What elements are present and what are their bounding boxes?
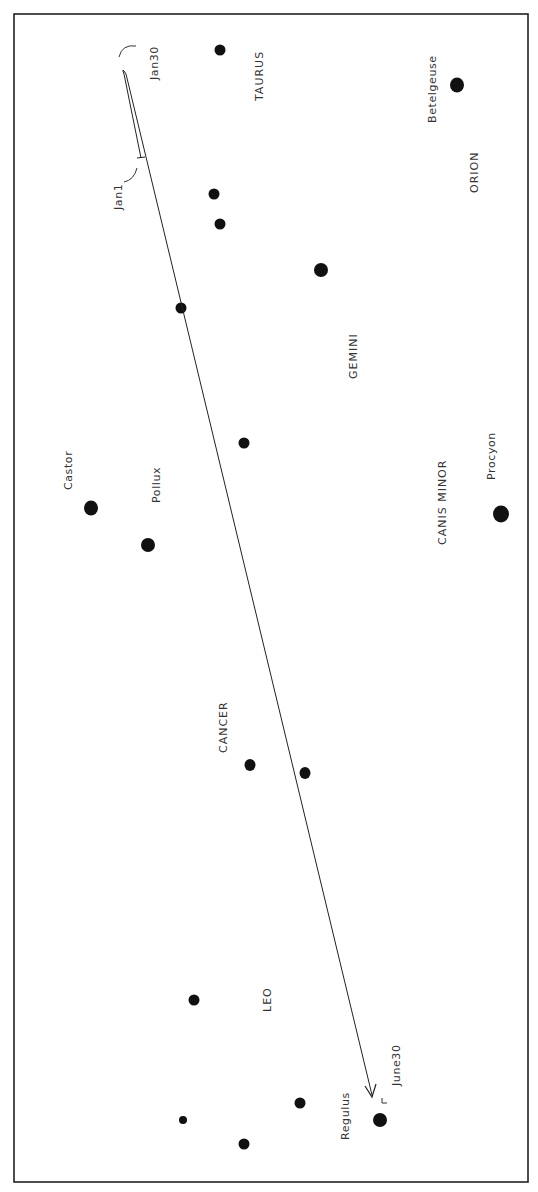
star-leo-4 <box>239 1139 250 1150</box>
path-line <box>123 70 372 1095</box>
star-label-betelgeuse: Betelgeuse <box>426 55 439 123</box>
jan1-leader <box>124 168 137 182</box>
star-cancer-2 <box>300 767 311 779</box>
star-betelgeuse <box>450 78 464 93</box>
star-label-regulus: Regulus <box>339 1092 352 1140</box>
star-regulus <box>373 1113 387 1127</box>
constellation-label-orion: ORION <box>468 152 481 193</box>
star-gemini-1 <box>314 263 328 277</box>
star-taurus-1 <box>215 45 226 56</box>
jan1-tick <box>137 157 145 158</box>
constellation-label-leo: LEO <box>261 987 274 1012</box>
star-leo-3 <box>179 1116 187 1124</box>
star-leo-2 <box>295 1098 306 1109</box>
stars-layer <box>84 45 509 1150</box>
star-pollux <box>141 538 155 552</box>
star-taurus-2 <box>209 189 220 200</box>
star-procyon <box>493 506 509 523</box>
date-label-jan30: Jan30 <box>148 46 161 81</box>
constellation-label-cancer: CANCER <box>217 701 230 753</box>
date-label-june30: June30 <box>390 1044 403 1087</box>
june30-leader <box>382 1098 387 1103</box>
star-gemini-3 <box>239 438 250 449</box>
constellation-label-taurus: TAURUS <box>253 51 266 102</box>
date-label-jan1: Jan1 <box>112 184 125 211</box>
star-label-pollux: Pollux <box>150 467 163 503</box>
star-chart: Jan30 Jan1 June30 TAURUS ORION GEMINI CA… <box>0 0 538 1192</box>
star-leo-1 <box>189 995 200 1006</box>
star-label-castor: Castor <box>62 451 75 490</box>
star-taurus-3 <box>215 219 226 230</box>
constellation-label-canis-minor: CANIS MINOR <box>436 460 449 545</box>
star-cancer-1 <box>245 759 256 771</box>
constellation-label-gemini: GEMINI <box>347 333 360 379</box>
star-castor <box>84 501 98 516</box>
planet-path <box>119 46 387 1103</box>
star-label-procyon: Procyon <box>485 432 498 480</box>
jan30-leader <box>119 46 136 57</box>
